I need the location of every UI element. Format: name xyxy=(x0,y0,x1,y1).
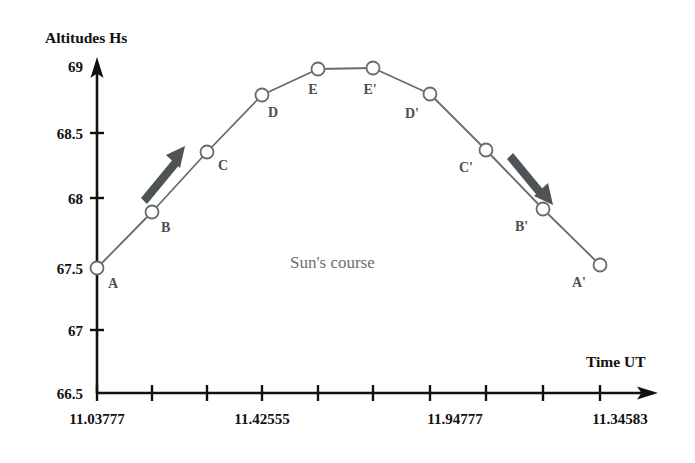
data-point-E[interactable] xyxy=(312,63,325,76)
x-tick-label-2: 11.42555 xyxy=(234,411,289,427)
data-point-C[interactable] xyxy=(201,146,214,159)
point-label-C: C xyxy=(218,158,228,173)
y-tick-label-66-5: 66.5 xyxy=(57,386,83,402)
data-point-C-prime[interactable] xyxy=(480,144,493,157)
data-point-A-prime[interactable] xyxy=(594,259,607,272)
data-point-D-prime[interactable] xyxy=(424,88,437,101)
point-label-E: E xyxy=(308,82,317,97)
point-label-D-prime: D' xyxy=(405,106,419,121)
chart-canvas: Altitudes Hs Time UT 69 68.5 68 67.5 67 … xyxy=(0,0,695,463)
suns-course-annotation: Sun's course xyxy=(290,253,375,272)
x-tick-label-3: 11.94777 xyxy=(427,411,483,427)
point-label-D: D xyxy=(268,105,278,120)
point-label-A-prime: A' xyxy=(572,275,586,290)
data-point-B-prime[interactable] xyxy=(537,203,550,216)
x-tick-label-4: 11.34583 xyxy=(592,411,647,427)
data-point-E-prime[interactable] xyxy=(367,62,380,75)
point-label-B-prime: B' xyxy=(515,219,528,234)
y-tick-label-67: 67 xyxy=(68,323,84,339)
y-tick-label-67-5: 67.5 xyxy=(57,261,83,277)
data-point-A[interactable] xyxy=(91,262,104,275)
y-tick-label-69: 69 xyxy=(68,59,83,75)
y-axis-title: Altitudes Hs xyxy=(45,29,127,46)
y-tick-label-68: 68 xyxy=(68,191,83,207)
point-label-C-prime: C' xyxy=(459,160,473,175)
point-label-A: A xyxy=(108,276,119,291)
data-point-D[interactable] xyxy=(256,89,269,102)
y-tick-label-68-5: 68.5 xyxy=(57,126,83,142)
point-label-E-prime: E' xyxy=(363,82,376,97)
point-label-B: B xyxy=(161,220,170,235)
x-tick-label-1: 11.03777 xyxy=(69,411,125,427)
x-axis-title: Time UT xyxy=(586,353,646,370)
data-point-B[interactable] xyxy=(146,206,159,219)
ascending-arrow xyxy=(141,146,185,204)
sun-course-chart: Altitudes Hs Time UT 69 68.5 68 67.5 67 … xyxy=(0,0,695,463)
